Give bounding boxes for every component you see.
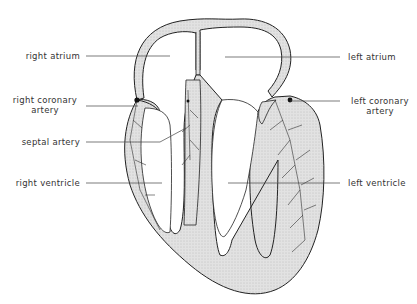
label-septal-artery: septal artery	[10, 137, 80, 147]
label-right-coronary-line2: artery	[8, 105, 82, 115]
label-right-coronary-artery: right coronary artery	[8, 95, 82, 115]
label-left-coronary-artery: left coronary artery	[344, 96, 416, 116]
label-left-atrium: left atrium	[348, 52, 396, 62]
label-right-coronary-line1: right coronary	[8, 95, 82, 105]
label-right-atrium: right atrium	[10, 51, 80, 61]
heart-diagram	[0, 0, 417, 304]
atrial-wall	[134, 19, 291, 100]
label-left-ventricle: left ventricle	[348, 178, 406, 188]
label-left-coronary-line2: artery	[344, 106, 416, 116]
label-right-ventricle: right ventricle	[5, 178, 80, 188]
label-left-coronary-line1: left coronary	[344, 96, 416, 106]
